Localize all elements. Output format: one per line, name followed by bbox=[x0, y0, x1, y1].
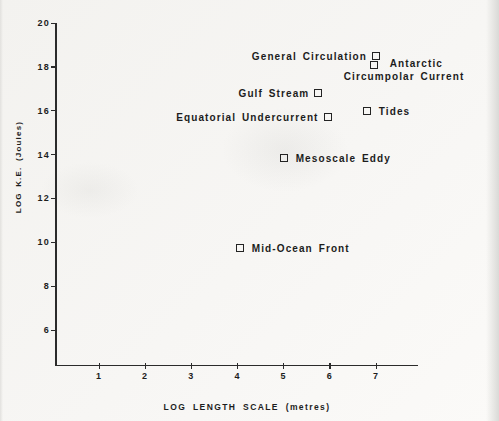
data-point-marker bbox=[324, 113, 332, 121]
data-point-label: Mesoscale Eddy bbox=[296, 152, 391, 163]
data-point-label-line: Circumpolar Current bbox=[344, 71, 465, 82]
scan-edge-left bbox=[0, 0, 3, 421]
x-tick bbox=[376, 363, 377, 369]
x-tick bbox=[237, 363, 238, 369]
x-tick-label: 5 bbox=[281, 371, 287, 381]
scatter-figure: 123456720181614121086 General Circulatio… bbox=[0, 0, 499, 421]
y-tick bbox=[51, 23, 56, 24]
y-tick-label: 20 bbox=[38, 18, 50, 28]
data-point-marker bbox=[314, 89, 322, 97]
x-tick-label: 4 bbox=[234, 371, 240, 381]
data-point-label: Mid-Ocean Front bbox=[252, 242, 350, 253]
y-tick bbox=[51, 110, 56, 111]
x-tick bbox=[99, 363, 100, 369]
y-tick-label: 10 bbox=[38, 237, 50, 247]
data-point-label: Gulf Stream bbox=[239, 88, 310, 99]
y-tick bbox=[51, 198, 56, 199]
y-axis-title: LOG K.E. (Joules) bbox=[14, 121, 23, 213]
x-tick-label: 7 bbox=[373, 371, 379, 381]
y-tick bbox=[51, 66, 56, 67]
data-point-marker bbox=[370, 61, 378, 69]
x-tick-label: 1 bbox=[96, 371, 102, 381]
scan-edge-right bbox=[486, 0, 499, 421]
data-point-marker bbox=[372, 52, 380, 60]
data-point-label: Tides bbox=[379, 105, 410, 116]
y-axis-line bbox=[55, 23, 57, 365]
x-axis-title: LOG LENGTH SCALE (metres) bbox=[164, 402, 331, 412]
y-tick bbox=[51, 154, 56, 155]
y-tick bbox=[51, 286, 56, 287]
x-tick bbox=[329, 363, 330, 369]
x-tick bbox=[191, 363, 192, 369]
data-point-marker bbox=[236, 244, 244, 252]
y-tick-label: 12 bbox=[38, 193, 50, 203]
data-point-marker bbox=[363, 107, 371, 115]
data-point-label-line: Antarctic bbox=[390, 58, 443, 69]
data-point-label: AntarcticCircumpolar Current bbox=[390, 58, 465, 82]
x-tick-label: 6 bbox=[327, 371, 333, 381]
y-tick-label: 18 bbox=[38, 62, 50, 72]
y-tick-label: 16 bbox=[38, 106, 50, 116]
y-tick-label: 6 bbox=[44, 325, 50, 335]
y-tick-label: 14 bbox=[38, 150, 50, 160]
y-tick bbox=[51, 242, 56, 243]
data-point-marker bbox=[280, 154, 288, 162]
y-tick bbox=[51, 330, 56, 331]
data-point-label: Equatorial Undercurrent bbox=[176, 112, 318, 123]
x-tick bbox=[145, 363, 146, 369]
data-point-label: General Circulation bbox=[252, 50, 367, 61]
x-tick bbox=[283, 363, 284, 369]
y-tick-label: 8 bbox=[44, 281, 50, 291]
x-tick-label: 2 bbox=[142, 371, 148, 381]
x-tick-label: 3 bbox=[188, 371, 194, 381]
